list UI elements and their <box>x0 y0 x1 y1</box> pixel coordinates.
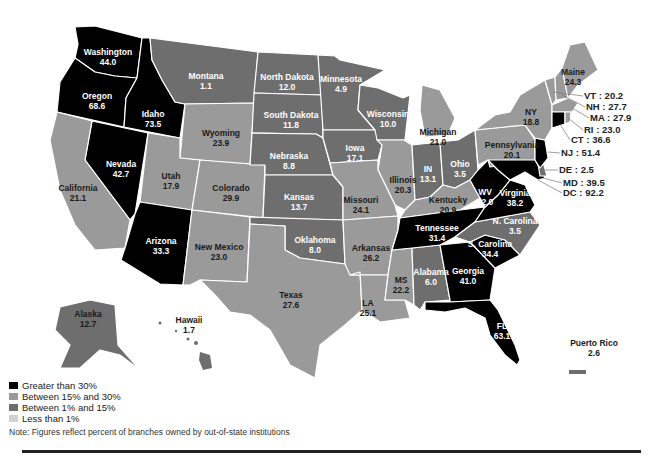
legend-swatch <box>9 382 18 389</box>
svg-text:38.2: 38.2 <box>507 198 524 208</box>
svg-text:CT : 36.6: CT : 36.6 <box>571 134 611 145</box>
svg-text:20.1: 20.1 <box>504 150 521 160</box>
svg-text:23.9: 23.9 <box>213 138 230 148</box>
svg-text:29.9: 29.9 <box>223 193 240 203</box>
svg-text:24.3: 24.3 <box>565 77 582 87</box>
legend-swatch <box>9 393 18 400</box>
svg-text:MS: MS <box>395 275 408 285</box>
svg-text:NH : 27.7: NH : 27.7 <box>586 101 627 112</box>
svg-text:Alabama: Alabama <box>413 267 449 277</box>
svg-text:North Dakota: North Dakota <box>260 72 314 82</box>
svg-text:Minnesota: Minnesota <box>320 74 362 84</box>
svg-text:Illinois: Illinois <box>390 175 417 185</box>
svg-text:Washington: Washington <box>84 47 132 57</box>
svg-text:31.4: 31.4 <box>429 233 446 243</box>
svg-text:13.1: 13.1 <box>420 174 437 184</box>
svg-text:NJ : 51.4: NJ : 51.4 <box>561 147 601 158</box>
legend-label: Between 15% and 30% <box>22 391 121 402</box>
svg-text:Montana: Montana <box>189 71 224 81</box>
svg-text:Iowa: Iowa <box>346 143 365 153</box>
svg-text:41.0: 41.0 <box>460 276 477 286</box>
legend-swatch <box>9 415 18 422</box>
map-legend: Greater than 30% Between 15% and 30% Bet… <box>9 380 121 424</box>
svg-text:18.8: 18.8 <box>523 117 540 127</box>
legend-label: Less than 1% <box>22 413 80 424</box>
svg-text:New Mexico: New Mexico <box>195 242 244 252</box>
legend-swatch <box>9 404 18 411</box>
svg-text:Michigan: Michigan <box>420 127 457 137</box>
bottom-rule-divider <box>22 450 641 453</box>
svg-text:Tennessee: Tennessee <box>415 223 459 233</box>
svg-text:Missouri: Missouri <box>344 195 379 205</box>
svg-text:Pennsylvania: Pennsylvania <box>485 140 540 150</box>
svg-text:Colorado: Colorado <box>212 183 249 193</box>
svg-text:Nebraska: Nebraska <box>270 151 309 161</box>
svg-text:24.1: 24.1 <box>353 205 370 215</box>
svg-text:N. Carolina: N. Carolina <box>493 216 538 226</box>
svg-text:Kansas: Kansas <box>284 192 315 202</box>
svg-text:10.0: 10.0 <box>380 119 397 129</box>
svg-text:3.5: 3.5 <box>509 226 521 236</box>
svg-text:Nevada: Nevada <box>106 159 137 169</box>
svg-text:Ohio: Ohio <box>450 159 469 169</box>
svg-text:63.1: 63.1 <box>494 331 511 341</box>
svg-text:23.0: 23.0 <box>211 252 228 262</box>
svg-text:MA : 27.9: MA : 27.9 <box>590 112 631 123</box>
svg-text:FL: FL <box>497 321 507 331</box>
svg-text:Maine: Maine <box>561 67 585 77</box>
svg-text:8.8: 8.8 <box>283 161 295 171</box>
svg-text:Arkansas: Arkansas <box>352 243 391 253</box>
svg-text:Virginia: Virginia <box>499 188 530 198</box>
legend-item-15-30: Between 15% and 30% <box>9 391 121 402</box>
svg-text:WV: WV <box>478 187 492 197</box>
svg-text:1.7: 1.7 <box>183 325 195 335</box>
svg-text:Hawaii: Hawaii <box>176 315 203 325</box>
svg-text:13.7: 13.7 <box>291 202 308 212</box>
svg-text:25.1: 25.1 <box>360 308 377 318</box>
svg-text:22.2: 22.2 <box>393 285 410 295</box>
svg-text:21.0: 21.0 <box>430 137 447 147</box>
svg-text:Kentucky: Kentucky <box>429 195 468 205</box>
svg-text:Georgia: Georgia <box>452 266 484 276</box>
map-note: Note: Figures reflect percent of branche… <box>9 427 290 437</box>
svg-text:LA: LA <box>362 298 373 308</box>
svg-text:3.5: 3.5 <box>454 169 466 179</box>
svg-text:73.5: 73.5 <box>145 119 162 129</box>
svg-text:17.9: 17.9 <box>163 181 180 191</box>
svg-text:Arizona: Arizona <box>145 236 176 246</box>
svg-text:33.3: 33.3 <box>153 246 170 256</box>
svg-text:Wisconsin: Wisconsin <box>367 109 409 119</box>
legend-item-lt1: Less than 1% <box>9 413 121 424</box>
svg-text:DE : 2.5: DE : 2.5 <box>559 164 595 175</box>
svg-text:South Dakota: South Dakota <box>264 110 319 120</box>
svg-text:68.6: 68.6 <box>89 101 106 111</box>
svg-text:17.1: 17.1 <box>347 153 364 163</box>
svg-text:26.2: 26.2 <box>363 253 380 263</box>
svg-text:1.1: 1.1 <box>200 81 212 91</box>
svg-text:California: California <box>58 183 97 193</box>
legend-label: Greater than 30% <box>22 380 97 391</box>
svg-text:11.8: 11.8 <box>283 120 299 130</box>
svg-text:Utah: Utah <box>162 171 181 181</box>
svg-text:Texas: Texas <box>279 290 303 300</box>
svg-text:12.7: 12.7 <box>80 319 97 329</box>
legend-item-1-15: Between 1% and 15% <box>9 402 121 413</box>
svg-text:Oregon: Oregon <box>82 91 112 101</box>
svg-text:44.0: 44.0 <box>100 57 117 67</box>
svg-text:21.1: 21.1 <box>70 193 87 203</box>
svg-text:NY: NY <box>525 107 537 117</box>
svg-text:S. Carolina: S. Carolina <box>468 239 513 249</box>
svg-text:42.7: 42.7 <box>113 169 130 179</box>
svg-text:34.4: 34.4 <box>482 249 499 259</box>
svg-text:Puerto Rico: Puerto Rico <box>570 338 618 348</box>
svg-text:Wyoming: Wyoming <box>202 128 240 138</box>
svg-text:Alaska: Alaska <box>74 309 102 319</box>
svg-text:IN: IN <box>424 164 433 174</box>
svg-text:DC : 92.2: DC : 92.2 <box>563 187 604 198</box>
svg-text:8.0: 8.0 <box>309 245 321 255</box>
legend-label: Between 1% and 15% <box>22 402 115 413</box>
svg-text:20.9: 20.9 <box>440 205 457 215</box>
svg-text:32.0: 32.0 <box>477 197 494 207</box>
state-connecticut <box>552 112 565 128</box>
svg-text:6.0: 6.0 <box>425 277 437 287</box>
